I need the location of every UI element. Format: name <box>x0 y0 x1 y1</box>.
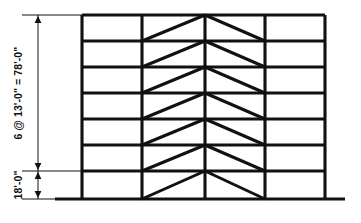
brace-story-4-left <box>142 93 205 119</box>
brace-story-3-right <box>205 119 265 145</box>
brace-story-2-right <box>205 145 265 171</box>
structural-frame <box>55 15 345 199</box>
dimension-arrowhead-upper-bottom <box>35 163 42 170</box>
dimension-arrowhead-lower-top <box>35 172 42 179</box>
brace-story-7-right <box>205 15 265 41</box>
dimension-annotations: 6 @ 13'-0" = 78'-0" 18'-0" <box>12 15 88 200</box>
dimension-label-lower: 18'-0" <box>12 170 24 199</box>
dimension-arrowhead-lower-bottom <box>35 191 42 198</box>
brace-story-6-left <box>142 41 205 67</box>
brace-story-2-left <box>142 145 205 171</box>
brace-story-1-left <box>142 171 205 199</box>
brace-story-1-right <box>205 171 265 199</box>
frame-elevation-svg: 6 @ 13'-0" = 78'-0" 18'-0" <box>0 0 361 223</box>
brace-story-5-left <box>142 67 205 93</box>
dimension-line-lower <box>35 171 42 199</box>
brace-story-4-right <box>205 93 265 119</box>
braced-frame-figure: 6 @ 13'-0" = 78'-0" 18'-0" <box>0 0 361 223</box>
brace-story-6-right <box>205 41 265 67</box>
brace-story-3-left <box>142 119 205 145</box>
dimension-extension-lines <box>22 15 88 199</box>
dimension-arrowhead-upper-top <box>35 16 42 23</box>
brace-story-7-left <box>142 15 205 41</box>
dimension-line-upper <box>35 15 42 171</box>
brace-story-5-right <box>205 67 265 93</box>
dimension-label-upper: 6 @ 13'-0" = 78'-0" <box>12 47 24 140</box>
